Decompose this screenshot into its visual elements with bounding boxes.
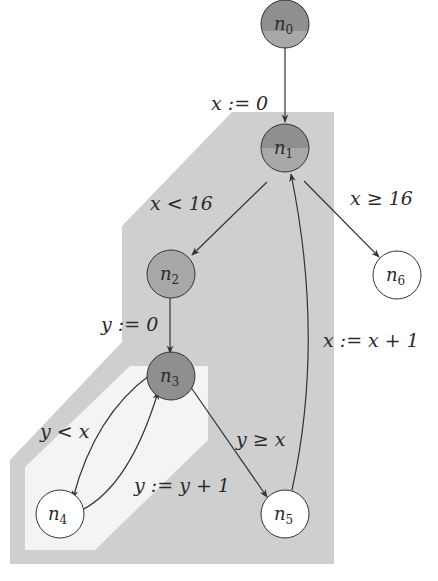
n3-sub: 3: [172, 375, 180, 389]
label-x-ge-16: x ≥ 16: [350, 187, 413, 209]
node-n0: n0: [261, 0, 309, 48]
node-n3: n3: [147, 352, 195, 400]
label-x-assign-0: x := 0: [211, 92, 268, 114]
n5-base: n: [274, 503, 286, 524]
label-y-lt-x: y < x: [39, 420, 90, 442]
n6-sub: 6: [398, 274, 406, 288]
n3-base: n: [160, 365, 172, 386]
label-y-assign-0: y := 0: [100, 313, 158, 335]
label-x-assign-x-plus-1: x := x + 1: [323, 329, 419, 351]
n4-sub: 4: [60, 513, 68, 527]
label-y-assign-y-plus-1: y := y + 1: [133, 474, 230, 496]
label-x-lt-16: x < 16: [150, 192, 213, 214]
node-n6: n6: [373, 251, 421, 299]
n0-sub: 0: [286, 23, 294, 37]
n5-sub: 5: [286, 513, 294, 527]
n1-base: n: [274, 137, 286, 158]
node-n1: n1: [261, 124, 309, 172]
n4-base: n: [48, 503, 60, 524]
n2-base: n: [160, 263, 172, 284]
node-n5: n5: [261, 490, 309, 538]
control-flow-diagram: n0 n1 n2 n3 n4 n5 n6 x := 0 x < 16 x ≥ 1…: [0, 0, 438, 581]
n1-sub: 1: [286, 147, 294, 161]
label-y-ge-x: y ≥ x: [235, 428, 286, 450]
node-n4: n4: [36, 490, 84, 538]
n2-sub: 2: [172, 273, 180, 287]
n0-base: n: [274, 13, 286, 34]
node-n2: n2: [147, 250, 195, 298]
n6-base: n: [386, 264, 398, 285]
